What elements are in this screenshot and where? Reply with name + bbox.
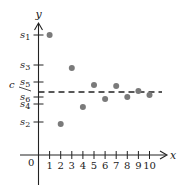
y-tick-label: s1 <box>20 29 30 42</box>
x-ticks: 12345678910 <box>46 151 155 171</box>
scatter-chart: yx0 s1s3s5s6s4s2 12345678910 c <box>0 0 183 192</box>
y-tick-label: s2 <box>20 116 30 129</box>
x-tick-label: 3 <box>69 160 75 171</box>
data-point <box>80 104 86 110</box>
data-point <box>102 96 108 102</box>
x-tick-label: 4 <box>80 160 86 171</box>
data-point <box>113 83 119 89</box>
x-tick-label: 5 <box>91 160 97 171</box>
x-axis-label: x <box>170 149 177 162</box>
x-tick-label: 1 <box>46 160 52 171</box>
y-axis-label: y <box>35 8 43 21</box>
axes: yx0 <box>20 8 177 185</box>
data-point <box>47 32 53 38</box>
data-point <box>135 88 141 94</box>
origin-label: 0 <box>28 157 34 168</box>
c-label: c <box>9 79 15 90</box>
x-tick-label: 9 <box>135 160 141 171</box>
data-point <box>91 82 97 88</box>
y-tick-label: s5 <box>20 76 30 89</box>
y-tick-label: s3 <box>20 59 30 72</box>
data-point <box>58 121 64 127</box>
x-tick-label: 7 <box>113 160 119 171</box>
x-tick-label: 8 <box>124 160 130 171</box>
x-tick-label: 6 <box>102 160 108 171</box>
x-tick-label: 10 <box>143 160 156 171</box>
data-point <box>147 92 153 98</box>
data-point <box>124 94 130 100</box>
y-ticks: s1s3s5s6s4s2 <box>20 29 44 129</box>
x-tick-label: 2 <box>58 160 64 171</box>
data-point <box>69 65 75 71</box>
data-points <box>47 32 153 127</box>
